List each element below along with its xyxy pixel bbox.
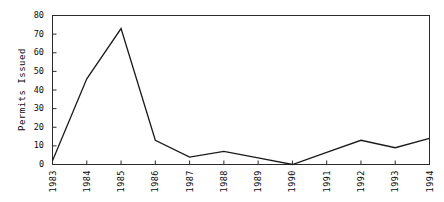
x-tick-label: 1993	[390, 170, 400, 192]
x-tick-label: 1988	[219, 170, 229, 192]
x-axis-ticks	[53, 161, 430, 165]
x-tick-label: 1989	[253, 170, 263, 192]
x-tick-label: 1987	[185, 170, 195, 192]
x-tick-label: 1983	[48, 170, 58, 192]
x-tick-label: 1984	[82, 170, 92, 192]
data-series-line	[53, 29, 430, 165]
line-chart: Permits Issued 01020304050607080 1983198…	[0, 0, 444, 202]
plot-border	[53, 16, 430, 165]
x-tick-label: 1991	[322, 170, 332, 192]
x-tick-label: 1992	[356, 170, 366, 192]
x-tick-label: 1986	[150, 170, 160, 192]
x-tick-label: 1994	[425, 170, 435, 192]
x-tick-label: 1985	[116, 170, 126, 192]
y-axis-ticks	[53, 16, 57, 165]
x-tick-label: 1990	[287, 170, 297, 192]
plot-frame	[53, 16, 430, 165]
